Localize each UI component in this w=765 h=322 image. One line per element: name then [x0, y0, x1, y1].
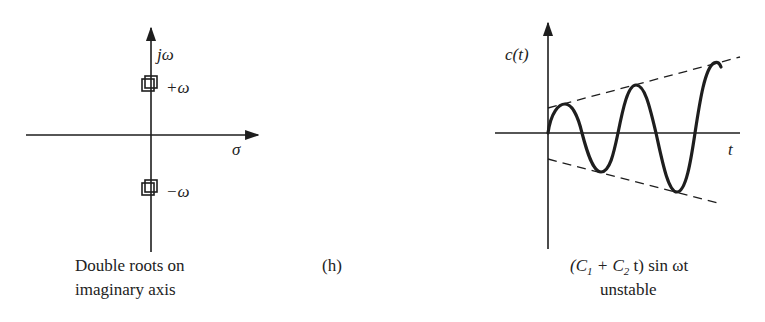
left-caption: Double roots on imaginary axis [75, 254, 185, 302]
response-axis-label: c(t) [505, 46, 529, 63]
response-curve [548, 62, 721, 192]
real-axis-label: σ [232, 141, 240, 158]
root-label-minus-omega: −ω [166, 183, 189, 200]
time-axis-label: t [728, 141, 733, 158]
lower-envelope [548, 159, 718, 203]
formula-open: (C [570, 256, 587, 275]
double-square-icon [142, 76, 157, 91]
double-square-icon [142, 180, 157, 195]
left-caption-line2: imaginary axis [75, 278, 185, 302]
root-label-plus-omega: +ω [166, 79, 189, 96]
left-caption-line1: Double roots on [75, 254, 185, 278]
figure-label: (h) [322, 254, 342, 278]
right-caption-stability: unstable [600, 278, 657, 302]
imaginary-axis-label: jω [157, 46, 174, 63]
formula-plus: + C [593, 256, 624, 275]
time-response-plot [495, 23, 740, 249]
s-plane-diagram [26, 28, 258, 252]
formula-rest: t) sin ωt [629, 256, 688, 275]
